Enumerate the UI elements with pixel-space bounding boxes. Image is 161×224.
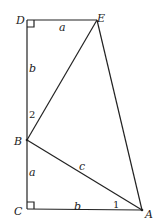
label-segment-db: b: [29, 62, 36, 75]
segment-ca: [27, 209, 142, 210]
right-angle-mark-d: [27, 20, 34, 27]
label-d: D: [15, 14, 25, 27]
right-angle-mark-c: [27, 202, 34, 209]
label-segment-ca: b: [74, 200, 81, 213]
trapezoid-diagram: D E B C A a b a b c 2 1: [0, 0, 161, 224]
point-a-dot: [141, 209, 144, 212]
label-b: B: [13, 135, 22, 148]
segment-ea: [97, 20, 142, 210]
segment-eb: [27, 20, 97, 140]
segment-ba: [27, 140, 142, 210]
label-angle-1: 1: [113, 199, 119, 210]
label-angle-2: 2: [29, 109, 35, 120]
label-segment-bc: a: [29, 166, 36, 179]
label-e: E: [96, 12, 105, 25]
label-segment-ba: c: [79, 160, 85, 173]
label-a: A: [144, 208, 153, 221]
label-c: C: [14, 205, 23, 218]
point-b-dot: [26, 139, 29, 142]
label-segment-de: a: [59, 21, 66, 34]
